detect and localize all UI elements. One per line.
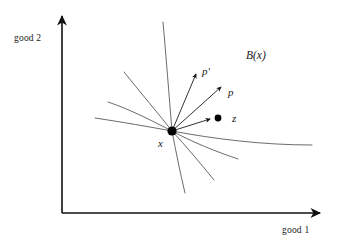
budget-set-label: B(x) xyxy=(246,50,266,62)
budget-set-diagram: good 2 good 1 x p' p z B(x) xyxy=(0,0,341,248)
point-z-marker xyxy=(215,115,222,122)
curve-lower-right-mid xyxy=(172,131,238,159)
curve-upper-left-steep xyxy=(124,72,172,131)
p-vector-label: p xyxy=(228,87,234,98)
p-vector xyxy=(172,87,221,131)
vector-group xyxy=(172,74,221,131)
curve-fan xyxy=(95,22,312,193)
point-z-label: z xyxy=(232,113,236,124)
curve-upper-left-shallow xyxy=(108,102,172,131)
curve-lower-right-steep xyxy=(172,131,214,180)
point-x-marker xyxy=(167,126,176,135)
curve-left-flat xyxy=(95,118,172,131)
curve-up-vertical xyxy=(163,22,172,131)
diagram-canvas xyxy=(0,0,341,248)
point-x-label: x xyxy=(158,138,163,149)
curve-down-steep xyxy=(172,131,185,193)
p-prime-vector xyxy=(172,74,196,131)
z-vector xyxy=(172,119,210,131)
x-axis-label: good 1 xyxy=(282,226,309,236)
y-axis-label: good 2 xyxy=(14,34,41,44)
curve-right-long xyxy=(172,131,312,145)
p-prime-vector-label: p' xyxy=(202,66,210,77)
